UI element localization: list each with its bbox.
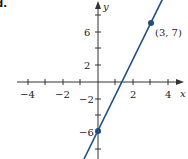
point-label: (3, 7) [155, 27, 182, 38]
point-0-neg6 [95, 128, 101, 134]
x-axis-arrow-icon [176, 79, 184, 85]
x-tick-label: 4 [165, 89, 171, 100]
graph-line [84, 0, 167, 159]
part-label: d. [0, 0, 7, 9]
x-tick-label: −4 [20, 89, 35, 100]
y-tick-label: −6 [79, 127, 94, 138]
y-tick-label: −2 [79, 94, 94, 105]
y-tick-label: 6 [84, 27, 90, 38]
coordinate-plot: d. y x −4 −2 2 4 6 2 −2 −6 (3 [0, 0, 188, 159]
y-tick-label: 2 [84, 60, 90, 71]
point-3-7 [148, 20, 154, 26]
x-tick-label: −2 [55, 89, 70, 100]
x-tick-label: 2 [130, 89, 136, 100]
y-axis-arrow-icon [95, 1, 101, 9]
x-axis-label: x [180, 88, 186, 99]
y-axis-label: y [102, 1, 109, 12]
